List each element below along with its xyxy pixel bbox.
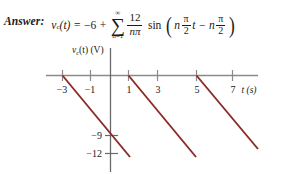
y-tick-label: −9 <box>91 130 102 141</box>
sine-function-name: sin <box>148 19 161 31</box>
x-tick-label: 5 <box>195 84 200 95</box>
answer-line: Answer: vc(t) = −6 + ∞ ∑ n=1 12 nπ sin (… <box>4 6 287 40</box>
y-axis-label: vc(t) (V) <box>72 45 104 56</box>
index-n-first: n <box>174 19 180 31</box>
y-axis-tick-labels: −9 −12 <box>86 130 102 159</box>
fraction-numerator: π <box>182 14 191 25</box>
x-axis-label: t (s) <box>241 85 256 96</box>
y-tick-label: −12 <box>86 148 102 159</box>
x-tick-label: 3 <box>156 84 161 95</box>
variable-argument: (t) <box>60 19 71 31</box>
equation: vc(t) = −6 + ∞ ∑ n=1 12 nπ sin ( n π 2 <box>51 6 236 40</box>
sawtooth-waveform-plot: vc(t) (V) −3 −1 1 3 5 7 <box>0 40 287 174</box>
waveform-segment-1 <box>63 76 131 158</box>
open-parenthesis: ( <box>166 16 172 34</box>
figure-root: Answer: vc(t) = −6 + ∞ ∑ n=1 12 nπ sin (… <box>0 0 287 174</box>
close-parenthesis: ) <box>229 16 235 34</box>
x-tick-label: −1 <box>85 84 96 95</box>
fraction-numerator: π <box>216 14 225 25</box>
fraction-twelve-over-n-pi: 12 nπ <box>127 12 142 37</box>
fraction-pi-over-two-second: π 2 <box>216 14 225 37</box>
waveform-segment-2 <box>129 76 197 158</box>
variable-subscript-c: c <box>56 23 59 31</box>
x-tick-label: 7 <box>231 84 236 95</box>
answer-label: Answer: <box>4 6 44 28</box>
plus-sign: + <box>100 19 107 31</box>
index-n-second: n <box>209 19 215 31</box>
fraction-denominator: 2 <box>182 26 191 37</box>
x-tick-label: −3 <box>57 84 68 95</box>
minus-sign: − <box>199 19 206 31</box>
x-tick-label: 1 <box>127 84 132 95</box>
summation-operator: ∞ ∑ n=1 <box>111 10 125 40</box>
equals-sign: = <box>74 19 81 31</box>
fraction-denominator: 2 <box>216 26 225 37</box>
summation-lower-limit: n=1 <box>112 33 123 40</box>
fraction-numerator: 12 <box>127 12 142 24</box>
fraction-pi-over-two-first: π 2 <box>182 14 191 37</box>
y-axis-ticks <box>105 136 118 154</box>
constant-term: −6 <box>84 19 96 31</box>
time-variable: t <box>192 19 195 31</box>
fraction-denominator: nπ <box>127 26 142 38</box>
